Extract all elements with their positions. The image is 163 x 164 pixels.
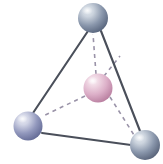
tetrahedral-molecule-figure (0, 0, 163, 164)
bond-center-to-bottom-right-dashed (110, 97, 134, 135)
bottom-left-vertex-atom-specular-highlight (17, 115, 28, 123)
bottom-right-vertex-atom-sphere (130, 130, 160, 160)
bond-center-to-top-dashed (93, 34, 96, 74)
central-atom-specular-highlight (87, 77, 98, 85)
bottom-right-vertex-atom (130, 130, 160, 160)
bottom-left-vertex-atom-sphere (14, 112, 43, 141)
top-vertex-atom-specular-highlight (82, 6, 93, 15)
molecule-diagram-canvas (0, 0, 163, 164)
top-vertex-atom-sphere (78, 3, 108, 33)
edge-bottom-left-to-bottom-right (42, 133, 131, 145)
bottom-left-vertex-atom (14, 112, 43, 141)
top-vertex-atom (78, 3, 108, 33)
central-atom (84, 74, 113, 103)
edge-top-to-bottom-left (33, 31, 88, 113)
central-atom-sphere (84, 74, 113, 103)
bottom-right-vertex-atom-specular-highlight (134, 133, 145, 142)
bond-center-to-bottom-left-dashed (43, 96, 85, 116)
